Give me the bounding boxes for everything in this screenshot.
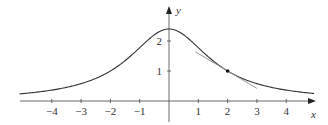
axes: x y [20, 4, 316, 122]
x-axis-label: x [310, 108, 316, 120]
x-ticks: −4−3−2−11234 [46, 99, 290, 117]
x-tick-label: −1 [134, 105, 146, 117]
y-axis-label: y [175, 4, 181, 16]
curve-line [20, 29, 314, 94]
x-tick-label: 2 [225, 105, 231, 117]
x-tick-label: 1 [196, 105, 202, 117]
x-tick-label: 3 [254, 105, 260, 117]
y-tick-label: 1 [157, 65, 163, 77]
x-tick-label: 4 [283, 105, 289, 117]
y-tick-label: 2 [157, 35, 163, 47]
chart: x y −4−3−2−11234 12 [0, 0, 328, 125]
x-axis-arrow-icon [308, 98, 316, 104]
tangent-point [226, 69, 230, 73]
x-tick-label: −3 [75, 105, 87, 117]
y-axis-arrow-icon [166, 6, 172, 14]
x-tick-label: −4 [46, 105, 58, 117]
x-tick-label: −2 [105, 105, 117, 117]
